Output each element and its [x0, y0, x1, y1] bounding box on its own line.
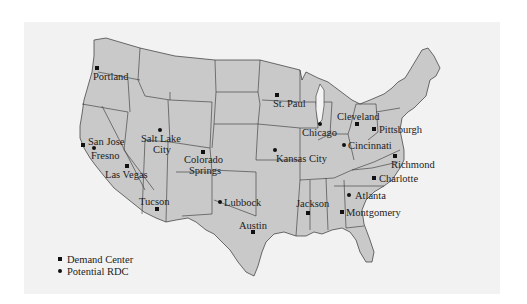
marker-jackson [306, 211, 310, 215]
marker-salt-lake-city [158, 128, 162, 132]
label-atlanta: Atlanta [355, 191, 386, 201]
label-montgomery: Montgomery [346, 208, 401, 218]
square-marker-icon [58, 257, 62, 261]
legend-item-potential-rdc: Potential RDC [58, 265, 133, 277]
label-tucson: Tucson [139, 197, 170, 207]
label-las-vegas: Las Vegas [105, 170, 148, 180]
legend-label: Demand Center [67, 254, 133, 265]
label-jackson: Jackson [296, 199, 329, 209]
label-charlotte: Charlotte [379, 174, 418, 184]
label-lubbock: Lubbock [224, 198, 261, 208]
marker-kansas-city [273, 148, 277, 152]
marker-lubbock [218, 200, 222, 204]
label-salt-lake-city-2: City [153, 145, 171, 155]
us-landmass [80, 38, 440, 276]
label-cincinnati: Cincinnati [348, 141, 392, 151]
marker-cincinnati [342, 143, 346, 147]
label-richmond: Richmond [391, 160, 435, 170]
label-pittsburgh: Pittsburgh [379, 125, 422, 135]
marker-st-paul [275, 93, 279, 97]
label-st-paul: St. Paul [273, 99, 306, 109]
marker-tucson [155, 207, 159, 211]
label-cleveland: Cleveland [337, 112, 380, 122]
marker-richmond [393, 154, 397, 158]
label-portland: Portland [93, 72, 129, 82]
label-kansas-city: Kansas City [276, 154, 327, 164]
label-colorado-springs-1: Colorado [184, 155, 223, 165]
marker-pittsburgh [372, 127, 376, 131]
marker-cleveland [355, 122, 359, 126]
marker-chicago [318, 122, 322, 126]
marker-charlotte [372, 176, 376, 180]
label-colorado-springs-2: Springs [189, 166, 221, 176]
legend-item-demand-center: Demand Center [58, 253, 133, 265]
marker-montgomery [340, 210, 344, 214]
marker-atlanta [347, 193, 351, 197]
legend-label: Potential RDC [67, 266, 129, 277]
dot-marker-icon [58, 269, 62, 273]
marker-san-jose [81, 143, 85, 147]
map-legend: Demand Center Potential RDC [58, 253, 133, 277]
marker-portland [95, 66, 99, 70]
label-chicago: Chicago [302, 128, 337, 138]
marker-las-vegas [125, 164, 129, 168]
label-fresno: Fresno [91, 151, 120, 161]
label-austin: Austin [239, 221, 267, 231]
label-salt-lake-city-1: Salt Lake [141, 134, 181, 144]
